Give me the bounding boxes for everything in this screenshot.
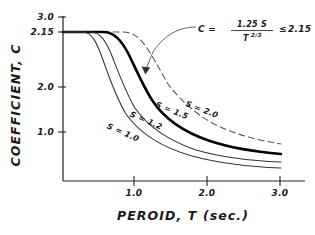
- equation-leader-arrowhead: [142, 67, 151, 75]
- equation-denominator-exponent: 2/3: [251, 32, 262, 38]
- x-ticklabel-3: 3.0: [272, 188, 289, 198]
- equation-leader-line: [146, 27, 196, 69]
- equation-annotation: C = 1.25 S T 2/3 ≤ 2.15: [142, 20, 312, 75]
- y-axis-ticks: [58, 17, 66, 132]
- x-axis-title: PEROID, T (sec.): [117, 208, 249, 223]
- curves: [63, 32, 281, 168]
- equation-limit: 2.15: [288, 24, 311, 34]
- equation-numerator: 1.25 S: [237, 20, 267, 29]
- y-ticklabel-1: 1.0: [37, 127, 54, 137]
- curve-label-s-2.0: S = 2.0: [184, 99, 219, 120]
- y-axis-ticklabels: 3.0 2.15 2.0 1.0: [31, 12, 54, 137]
- y-ticklabel-3: 3.0: [37, 12, 54, 22]
- curve-s-2.0: [63, 32, 281, 144]
- equation-denominator-base: T: [243, 34, 249, 43]
- chart-figure: 3.0 2.15 2.0 1.0 1.0 2.0 3.0: [0, 0, 315, 235]
- equation-lhs: C =: [198, 24, 216, 34]
- x-ticklabel-2: 2.0: [199, 188, 216, 198]
- y-axis-title: COEFFICIENT, C: [8, 43, 23, 166]
- coefficient-period-chart: 3.0 2.15 2.0 1.0 1.0 2.0 3.0: [0, 0, 315, 235]
- curve-s-1.0: [63, 32, 281, 168]
- equation-relation: ≤: [279, 24, 287, 34]
- x-ticklabel-1: 1.0: [126, 188, 143, 198]
- y-ticklabel-2: 2.0: [37, 82, 54, 92]
- axes: [63, 16, 305, 181]
- curve-s-1.2: [63, 32, 281, 162]
- x-axis-ticklabels: 1.0 2.0 3.0: [126, 188, 289, 198]
- y-ticklabel-2.15: 2.15: [31, 27, 54, 37]
- curve-s-1.5: [63, 32, 281, 154]
- curve-label-s-1.2: S = 1.2: [128, 110, 163, 132]
